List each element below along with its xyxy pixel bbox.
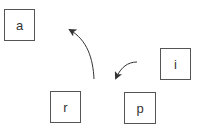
arrows-layer: [0, 0, 206, 131]
curved-arrow-up-icon: [70, 30, 94, 79]
curved-arrow-left-icon: [116, 62, 137, 78]
